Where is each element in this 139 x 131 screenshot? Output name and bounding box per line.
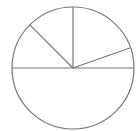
slice-boundary-d <box>30 25 73 68</box>
pie-chart <box>0 0 139 131</box>
slice-boundary-b <box>73 48 131 68</box>
pie-slice-boundaries <box>12 7 134 68</box>
